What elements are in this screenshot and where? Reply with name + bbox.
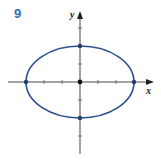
ellipse-plot: y x [0, 0, 161, 160]
y-axis-label: y [69, 9, 75, 20]
x-axis-label: x [145, 85, 151, 96]
y-axis-arrow-icon [77, 11, 83, 19]
